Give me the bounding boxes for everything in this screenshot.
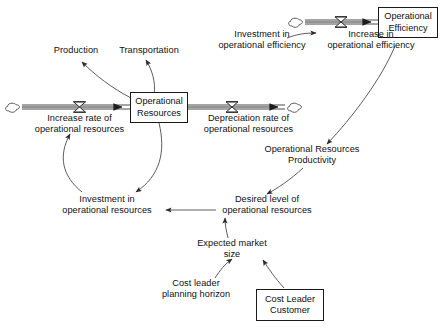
variable-investment-in-operational-resources[interactable]: Investment in operational resources xyxy=(48,194,166,216)
variable-cost-leader-planning-horizon[interactable]: Cost leader planning horizon xyxy=(148,278,244,300)
variable-production[interactable]: Production xyxy=(42,45,110,56)
cloud-source-left xyxy=(6,103,20,112)
flow-pipe-increase-rate-operational-resources xyxy=(22,105,130,109)
variable-desired-level-line1: Desired level of xyxy=(209,194,325,205)
stock-cost-leader-customer-line1: Cost Leader xyxy=(265,294,315,305)
variable-investment-in-operational-resources-line1: Investment in xyxy=(48,194,166,205)
variable-desired-level-of-operational-resources[interactable]: Desired level of operational resources xyxy=(209,194,325,216)
variable-production-line1: Production xyxy=(42,45,110,56)
variable-operational-resources-productivity[interactable]: Operational Resources Productivity xyxy=(249,144,375,166)
link-cost-leader-planning-horizon-to-expected-market-size xyxy=(215,259,232,278)
link-operational-resources-to-transportation xyxy=(146,60,155,95)
flow-label-depreciation-rate-line2: operational resources xyxy=(190,124,307,135)
flow-label-increase-rate-line1: Increase rate of xyxy=(14,113,145,124)
flow-label-increase-rate-line2: operational resources xyxy=(14,124,145,135)
variable-cost-leader-planning-horizon-line2: planning horizon xyxy=(148,289,244,300)
cloud-sink-right xyxy=(288,103,302,112)
flow-label-depreciation-rate-line1: Depreciation rate of xyxy=(190,113,307,124)
link-operational-resources-to-production xyxy=(82,62,131,98)
variable-transportation-line1: Transportation xyxy=(107,45,191,56)
variable-investment-in-operational-efficiency-line1: Investment in xyxy=(204,29,320,40)
stock-cost-leader-customer[interactable]: Cost Leader Customer xyxy=(256,289,324,321)
variable-investment-in-operational-efficiency-line2: operational efficiency xyxy=(204,40,320,51)
stock-and-flow-diagram: Operational Resources Operational Effici… xyxy=(0,0,446,329)
link-investment-in-operational-resources-to-increase-rate xyxy=(63,134,82,192)
stock-operational-efficiency-line1: Operational xyxy=(384,11,432,22)
flow-label-increase-in-operational-efficiency-line2: operational efficiency xyxy=(312,40,430,51)
link-operational-efficiency-to-operational-resources-productivity xyxy=(327,46,395,144)
variable-expected-market-size[interactable]: Expected market size xyxy=(187,238,277,260)
variable-operational-resources-productivity-line2: Productivity xyxy=(249,155,375,166)
variable-transportation[interactable]: Transportation xyxy=(107,45,191,56)
cloud-source-top-right xyxy=(289,18,303,27)
variable-expected-market-size-line1: Expected market xyxy=(187,238,277,249)
link-operational-resources-productivity-to-desired-level xyxy=(267,168,303,194)
variable-investment-in-operational-resources-line2: operational resources xyxy=(48,205,166,216)
variable-desired-level-line2: operational resources xyxy=(209,205,325,216)
flow-pipe-depreciation-rate-operational-resources xyxy=(188,105,285,109)
link-expected-market-size-to-desired-level xyxy=(225,218,228,238)
flow-label-increase-in-operational-efficiency-line1: Increase in xyxy=(312,29,430,40)
variable-expected-market-size-line2: size xyxy=(187,249,277,260)
stock-operational-resources-line1: Operational xyxy=(135,96,183,107)
flow-label-increase-rate-operational-resources[interactable]: Increase rate of operational resources xyxy=(14,113,145,135)
variable-operational-resources-productivity-line1: Operational Resources xyxy=(249,144,375,155)
stock-cost-leader-customer-line2: Customer xyxy=(270,305,310,316)
link-cost-leader-customer-to-expected-market-size xyxy=(263,260,284,288)
variable-investment-in-operational-efficiency[interactable]: Investment in operational efficiency xyxy=(204,29,320,51)
variable-cost-leader-planning-horizon-line1: Cost leader xyxy=(148,278,244,289)
flow-label-increase-in-operational-efficiency[interactable]: Increase in operational efficiency xyxy=(312,29,430,51)
flow-label-depreciation-rate-operational-resources[interactable]: Depreciation rate of operational resourc… xyxy=(190,113,307,135)
